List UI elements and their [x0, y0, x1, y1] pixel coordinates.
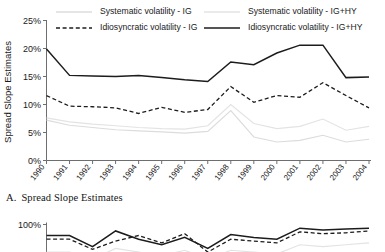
panel-b-axes: 100%: [18, 220, 47, 252]
panel-b-chart-svg: 100%: [0, 213, 385, 252]
x-axis-tick-label: 1993: [98, 162, 116, 182]
legend-label-3: Idiosyncratic volatility - IG+HY: [248, 22, 363, 32]
panel-b-series-line-idiosyncratic-volatility-ig-hy: [47, 228, 370, 248]
series-line-idiosyncratic-volatility-ig: [47, 83, 370, 114]
x-axis-tick-label: 1991: [52, 162, 70, 182]
legend-label-0: Systematic volatility - IG: [100, 6, 192, 16]
chart-axes: 0%5%10%15%20%25%: [23, 16, 371, 166]
y-axis-tick-label: 10%: [23, 100, 41, 110]
x-axis-tick-label: 1994: [121, 162, 139, 182]
y-axis-tick-label: 20%: [23, 44, 41, 54]
spread-slope-chart-svg: Systematic volatility - IGSystematic vol…: [0, 0, 385, 190]
panel-b-y-axis-tick-label: 100%: [18, 220, 41, 230]
figure-page: Systematic volatility - IGSystematic vol…: [0, 0, 385, 252]
y-axis-title: Spread Slope Estimates: [2, 41, 13, 143]
x-axis-tick-label: 1996: [167, 162, 185, 182]
x-axis-tick-label: 1999: [236, 162, 254, 182]
x-axis-tick-labels: 1990199119921993199419951996199719981999…: [29, 162, 370, 182]
y-axis-tick-label: 15%: [23, 72, 41, 82]
caption-letter: A.: [6, 192, 16, 203]
chart-legend: Systematic volatility - IGSystematic vol…: [56, 6, 363, 32]
series-line-idiosyncratic-volatility-ig-hy: [47, 45, 370, 81]
panel-b-chart: 100%: [0, 213, 385, 252]
series-line-systematic-volatility-ig-hy: [47, 105, 370, 131]
x-axis-tick-label: 1997: [190, 162, 208, 182]
x-axis-tick-label: 2000: [259, 162, 277, 182]
legend-label-2: Idiosyncratic volatility - IG: [100, 22, 198, 32]
panel-b-series-group: [47, 228, 370, 252]
caption-text: Spread Slope Estimates: [21, 192, 122, 203]
panel-a-chart: Systematic volatility - IGSystematic vol…: [0, 0, 385, 190]
x-axis-tick-label: 1998: [213, 162, 231, 182]
x-axis-tick-label: 2002: [305, 162, 323, 182]
panel-a-caption: A.Spread Slope Estimates: [6, 192, 123, 203]
legend-label-1: Systematic volatility - IG+HY: [248, 6, 357, 16]
x-axis-tick-label: 2003: [328, 162, 346, 182]
x-axis-tick-label: 2001: [282, 162, 300, 182]
x-axis-tick-label: 2004: [351, 162, 369, 182]
y-axis-tick-label: 25%: [23, 16, 41, 26]
y-axis-tick-label: 5%: [28, 128, 41, 138]
x-axis-tick-label: 1995: [144, 162, 162, 182]
x-axis-tick-label: 1992: [75, 162, 93, 182]
chart-series-group: [47, 45, 370, 142]
